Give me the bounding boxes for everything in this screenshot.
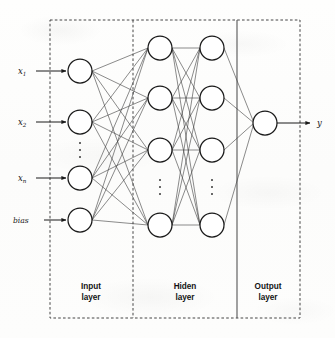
output-label-y: y	[316, 118, 322, 128]
svg-text:Output: Output	[255, 282, 282, 291]
layer-caption-output: Output layer	[255, 282, 282, 302]
input-node-x2[interactable]	[68, 110, 92, 134]
neural-network-diagram: x1 x2 xn bias	[0, 0, 335, 338]
output-node-y[interactable]	[253, 111, 277, 135]
hidden2-node-3[interactable]	[200, 138, 224, 162]
layer-caption-input: Input layer	[81, 282, 101, 302]
svg-text:layer: layer	[81, 293, 101, 302]
input-node-xn[interactable]	[68, 166, 92, 190]
input-label-x1: x1	[18, 66, 26, 77]
edges-hidden1-to-hidden2	[172, 48, 200, 225]
input-label-bias: bias	[13, 216, 29, 225]
hidden-column1-ellipsis-icon	[159, 179, 161, 195]
input-label-xn: xn	[18, 173, 27, 184]
hidden1-node-1[interactable]	[148, 36, 172, 60]
hidden2-node-2[interactable]	[200, 86, 224, 110]
svg-text:layer: layer	[258, 293, 278, 302]
hidden1-node-3[interactable]	[148, 138, 172, 162]
edges-input-to-hidden1	[92, 48, 148, 225]
figure-canvas: x1 x2 xn bias	[0, 0, 335, 338]
input-layer-ellipsis-icon	[79, 142, 81, 158]
edges-hidden2-to-output	[224, 48, 254, 225]
svg-text:Hiden: Hiden	[174, 282, 197, 291]
hidden2-node-4[interactable]	[200, 213, 224, 237]
hidden-column2-ellipsis-icon	[211, 179, 213, 195]
layer-caption-hidden: Hiden layer	[174, 282, 197, 302]
hidden1-node-2[interactable]	[148, 86, 172, 110]
hidden2-node-1[interactable]	[200, 36, 224, 60]
input-label-x2: x2	[18, 117, 27, 128]
svg-text:layer: layer	[175, 293, 195, 302]
svg-text:Input: Input	[81, 282, 101, 291]
input-node-bias[interactable]	[68, 208, 92, 232]
input-node-x1[interactable]	[68, 59, 92, 83]
hidden1-node-4[interactable]	[148, 213, 172, 237]
